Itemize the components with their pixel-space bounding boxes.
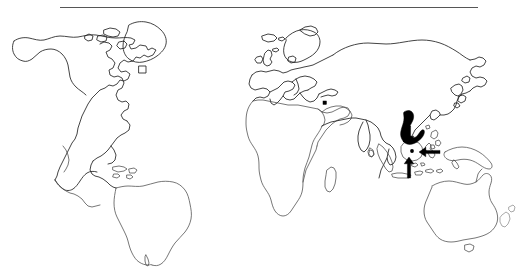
landmass-caribbean xyxy=(113,166,137,179)
landmass-australia xyxy=(424,169,498,252)
marker-small-square xyxy=(323,101,326,104)
locality-dot-3 xyxy=(403,140,405,142)
landmass-madagascar xyxy=(325,167,336,192)
up-arrow-icon xyxy=(404,157,414,178)
locality-dot-1 xyxy=(410,149,414,153)
landmass-iceland xyxy=(262,34,285,42)
arrow-java xyxy=(404,157,414,178)
landmass-scandinavia xyxy=(284,26,320,63)
landmass-north-america xyxy=(13,35,157,207)
shaded-region-indochina xyxy=(401,111,425,145)
world-map-canvas xyxy=(0,0,532,272)
landmass-greenland xyxy=(85,22,166,73)
landmass-south-america xyxy=(114,181,191,266)
landmass-british-isles xyxy=(255,48,279,66)
landmass-philippines xyxy=(426,125,441,149)
landmass-new-zealand xyxy=(500,205,515,227)
world-map-figure xyxy=(0,0,532,272)
landmass-new-guinea xyxy=(444,147,492,169)
landmass-africa xyxy=(246,100,350,216)
